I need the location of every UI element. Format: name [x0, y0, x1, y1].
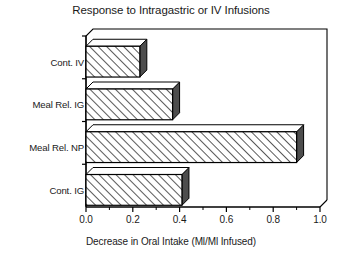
bars-group	[86, 39, 304, 205]
chart-figure: Response to Intragastric or IV Infusions…	[0, 0, 342, 259]
bar-0	[86, 168, 189, 206]
x-tick-label-5: 1.0	[313, 214, 327, 225]
x-tick-label-4: 0.8	[266, 214, 280, 225]
plot-area	[0, 0, 342, 259]
bar-1	[86, 125, 304, 163]
x-tick-label-2: 0.4	[173, 214, 187, 225]
bar-2	[86, 82, 180, 120]
bar-3	[86, 39, 147, 77]
x-tick-label-3: 0.6	[220, 214, 234, 225]
x-tick-label-1: 0.2	[126, 214, 140, 225]
x-tick-label-0: 0.0	[79, 214, 93, 225]
x-axis-label: Decrease in Oral Intake (Ml/Ml Infused)	[0, 236, 342, 247]
